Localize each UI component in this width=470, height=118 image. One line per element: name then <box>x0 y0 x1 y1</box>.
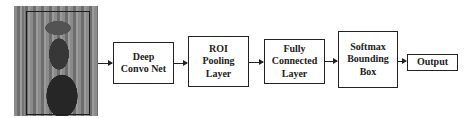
stage-label-line: Output <box>417 56 448 69</box>
stage-label-line: Deep <box>133 51 155 62</box>
stage-label-line: Fully <box>283 43 305 54</box>
stage-label-line: Softmax <box>350 41 386 52</box>
stage-deep-convo-net: DeepConvo Net <box>113 42 174 84</box>
stage-label-line: Convo Net <box>121 63 166 74</box>
stage-label-line: Box <box>360 66 377 77</box>
stage-label-line: Bounding <box>347 53 389 64</box>
bounding-box-overlay <box>26 11 90 115</box>
arrow-roi-to-fc <box>249 62 263 63</box>
arrow-fc-to-softmax <box>325 61 337 62</box>
stage-softmax-bounding-box: SoftmaxBoundingBox <box>338 31 398 88</box>
input-image <box>14 6 98 116</box>
arrow-softmax-to-output <box>398 61 406 62</box>
arrow-convo-to-roi <box>174 63 187 64</box>
stage-label-line: Layer <box>206 68 232 79</box>
stage-fully-connected-layer: FullyConnectedLayer <box>264 39 325 84</box>
stage-roi-pooling-layer: ROIPoolingLayer <box>188 36 249 87</box>
stage-label-line: Pooling <box>202 55 234 66</box>
stage-label-line: Connected <box>272 55 318 66</box>
arrow-image-to-convo <box>98 63 112 64</box>
stage-output: Output <box>407 54 458 71</box>
stage-label-line: ROI <box>209 43 228 54</box>
stage-label-line: Layer <box>282 68 308 79</box>
